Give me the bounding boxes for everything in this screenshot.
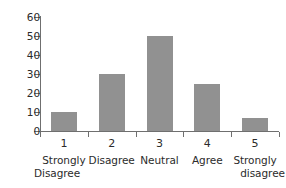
- x-tick-mark: [231, 132, 232, 137]
- plot-area: [40, 14, 280, 131]
- bar: [194, 84, 220, 132]
- x-category-number: 5: [231, 138, 279, 150]
- x-category-label-line2: Disagree: [34, 167, 94, 180]
- x-category-label: Stronglydisagree: [225, 154, 285, 179]
- y-tick-label: 50: [14, 31, 40, 42]
- x-tick-mark: [279, 132, 280, 137]
- bar: [99, 74, 125, 131]
- x-tick-mark: [40, 132, 41, 137]
- bar: [242, 118, 268, 131]
- y-tick-label: 40: [14, 50, 40, 61]
- x-category-number: 2: [88, 138, 136, 150]
- y-tick-label: 0: [14, 126, 40, 137]
- bar: [147, 36, 173, 131]
- x-axis-line: [40, 131, 279, 132]
- x-tick-mark: [136, 132, 137, 137]
- x-category-label-line1: Agree: [192, 154, 223, 166]
- y-tick-label: 10: [14, 107, 40, 118]
- x-tick-mark: [88, 132, 89, 137]
- x-category-label-line1: Disagree: [89, 154, 135, 166]
- bar-chart: 0102030405060 12345 StronglyDisagreeDisa…: [0, 0, 286, 188]
- bar: [51, 112, 77, 131]
- y-tick-label: 30: [14, 69, 40, 80]
- x-category-label-line2: disagree: [225, 167, 285, 180]
- x-category-label-line1: Strongly: [42, 154, 85, 166]
- x-category-label-line1: Strongly: [233, 154, 276, 166]
- x-tick-mark: [183, 132, 184, 137]
- y-tick-label: 20: [14, 88, 40, 99]
- x-category-number: 4: [183, 138, 231, 150]
- x-category-label-line1: Neutral: [140, 154, 178, 166]
- x-category-number: 1: [40, 138, 88, 150]
- y-tick-label: 60: [14, 12, 40, 23]
- x-category-number: 3: [136, 138, 184, 150]
